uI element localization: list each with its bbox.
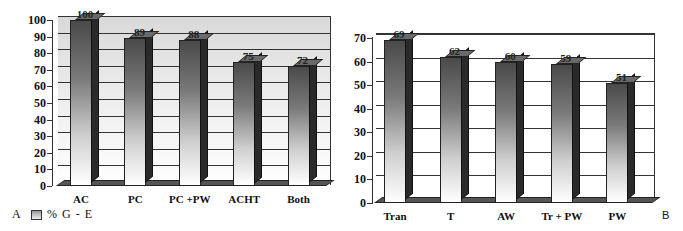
data-label: 60 <box>495 50 525 62</box>
y-tick-label: 20 <box>340 150 366 162</box>
y-tick-mark <box>367 132 372 133</box>
x-tick-label: PW <box>582 210 652 222</box>
y-tick-label: 30 <box>340 126 366 138</box>
bar-front <box>384 40 406 203</box>
bar-pw <box>606 83 636 203</box>
bar-front <box>606 83 628 203</box>
bar-front <box>551 64 573 203</box>
y-tick-label: 0 <box>340 197 366 209</box>
chart-b-y-axis <box>372 37 373 204</box>
y-tick-mark <box>367 85 372 86</box>
bar-side <box>572 54 580 200</box>
bar-tr-pw <box>551 64 581 203</box>
bar-tran <box>384 40 414 203</box>
y-tick-label: 50 <box>340 79 366 91</box>
y-tick-mark <box>367 156 372 157</box>
data-label: 59 <box>551 52 581 64</box>
data-label: 69 <box>384 28 414 40</box>
y-tick-mark <box>367 179 372 180</box>
y-tick-mark <box>367 203 372 204</box>
bar-front <box>440 57 462 203</box>
bar-t <box>440 57 470 203</box>
bar-side <box>627 73 635 200</box>
y-tick-label: 70 <box>340 32 366 44</box>
y-tick-label: 40 <box>340 103 366 115</box>
chart-b: 010203040506070 6962605951 TranTAWTr + P… <box>0 0 683 231</box>
bar-front <box>495 62 517 203</box>
y-tick-mark <box>367 109 372 110</box>
bar-side <box>516 52 524 200</box>
data-label: 62 <box>440 45 470 57</box>
bar-side <box>461 47 469 200</box>
y-tick-mark <box>367 62 372 63</box>
panel-label-b: B <box>662 209 669 221</box>
bar-aw <box>495 62 525 203</box>
y-tick-label: 10 <box>340 173 366 185</box>
bar-side <box>405 31 413 200</box>
y-tick-mark <box>367 38 372 39</box>
data-label: 51 <box>606 71 636 83</box>
y-tick-label: 60 <box>340 56 366 68</box>
